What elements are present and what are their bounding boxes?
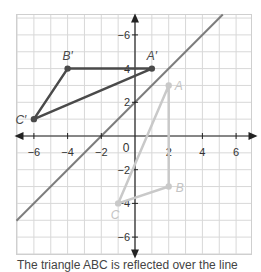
grid xyxy=(17,15,252,255)
preimage-label: C xyxy=(111,208,120,222)
image-triangle-a-prime-b-prime-c-prime: A′B′C′ xyxy=(15,49,157,128)
x-tick-label: −4 xyxy=(61,146,74,158)
image-vertex-c-prime xyxy=(31,116,37,122)
y-tick-label: −2 xyxy=(117,164,130,176)
image-edges xyxy=(34,69,152,120)
image-label: B′ xyxy=(62,49,73,63)
origin-label: 0 xyxy=(123,141,130,155)
preimage-vertex-b xyxy=(166,183,172,189)
preimage-vertex-a xyxy=(166,82,172,88)
x-axis-left-arrow-icon xyxy=(15,132,24,140)
preimage-vertex-c xyxy=(115,200,121,206)
image-vertex-a-prime xyxy=(149,65,155,71)
x-tick-label: −2 xyxy=(95,146,108,158)
caption: The triangle ABC is reflected over the l… xyxy=(17,258,238,272)
image-label: C′ xyxy=(15,113,27,127)
y-tick-label: −6 xyxy=(117,231,130,243)
image-label: A′ xyxy=(146,49,158,63)
preimage-label: A xyxy=(174,79,183,93)
preimage-label: B xyxy=(176,181,184,195)
x-axis-right-arrow-icon xyxy=(249,132,258,140)
y-tick-label: −6 xyxy=(117,29,130,41)
mirror-line xyxy=(17,15,223,221)
x-tick-label: −6 xyxy=(28,146,41,158)
grid-frame xyxy=(17,15,252,255)
y-tick-label: 2 xyxy=(124,96,130,108)
image-vertex-b-prime xyxy=(64,65,70,71)
x-tick-label: 6 xyxy=(233,146,239,158)
x-tick-label: 4 xyxy=(199,146,205,158)
mirror-line-segment xyxy=(17,15,223,221)
